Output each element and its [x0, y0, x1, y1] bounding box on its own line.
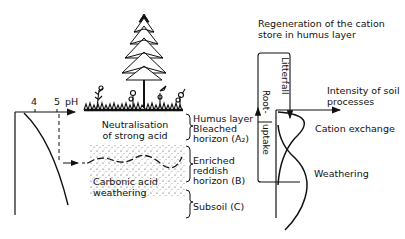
- uptake-label: uptake: [261, 124, 271, 155]
- zone-lower-label-1: Carbonic acid: [93, 176, 158, 187]
- weathering-label: Weathering: [314, 168, 369, 179]
- zone-upper-label-1: Neutralisation: [100, 119, 170, 130]
- ph-tick-4: 4: [31, 96, 37, 107]
- ground-vegetation: [84, 86, 185, 110]
- ph-tick-5: 5: [54, 96, 60, 107]
- cation-exchange-label: Cation exchange: [315, 123, 395, 134]
- ph-axis: [15, 109, 88, 215]
- intensity-axis-label-2: processes: [327, 96, 374, 107]
- panel-title-2: store in humus layer: [258, 29, 356, 40]
- horizon-bleached-2: horizon (A₂): [193, 133, 249, 144]
- ph-axis-label: pH: [65, 96, 78, 107]
- zone-upper-label-2: of strong acid: [100, 130, 170, 141]
- root-label: Root-: [261, 90, 271, 114]
- panel-title-1: Regeneration of the cation: [258, 18, 385, 29]
- ph-curve: [24, 113, 68, 205]
- intensity-axis-label-1: Intensity of soil: [327, 85, 400, 96]
- tree-illustration: [122, 14, 166, 108]
- horizon-enriched-3: horizon (B): [193, 175, 245, 186]
- horizon-braces: [186, 114, 193, 218]
- horizon-subsoil: Subsoil (C): [193, 201, 244, 212]
- zone-lower-label-2: weathering: [93, 187, 147, 198]
- litterfall-label: Litterfall: [280, 57, 290, 95]
